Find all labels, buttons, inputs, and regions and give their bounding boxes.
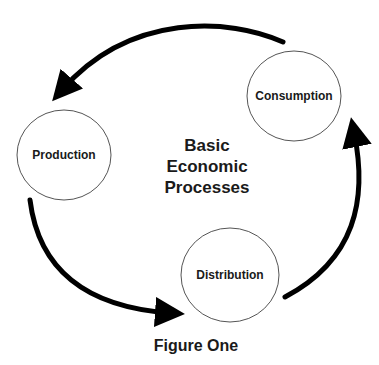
node-label-distribution: Distribution	[196, 268, 263, 282]
arrow-distribution-to-consumption	[285, 132, 359, 297]
node-label-consumption: Consumption	[255, 89, 332, 103]
arrow-production-to-distribution	[30, 200, 170, 313]
node-distribution: Distribution	[181, 228, 279, 322]
title-line-1: Basic	[184, 136, 229, 155]
node-label-production: Production	[32, 148, 95, 162]
node-consumption: Consumption	[247, 51, 341, 141]
economic-cycle-diagram: Production Distribution Consumption Basi…	[0, 0, 379, 365]
node-production: Production	[17, 110, 111, 200]
title-line-3: Processes	[164, 178, 249, 197]
figure-caption: Figure One	[154, 337, 239, 354]
diagram-title: Basic Economic Processes	[164, 136, 249, 197]
title-line-2: Economic	[166, 157, 247, 176]
